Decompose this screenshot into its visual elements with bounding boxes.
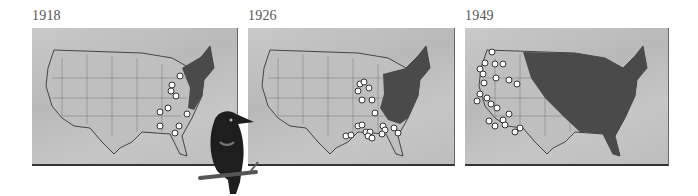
bird-icon [196,102,266,196]
map-frame [465,28,669,166]
us-map-1949 [465,28,668,164]
year-label: 1918 [32,8,61,24]
map-frame [248,28,455,166]
us-map-1926 [248,28,454,164]
year-label: 1926 [248,8,277,24]
year-label: 1949 [465,8,494,24]
starling-illustration [196,102,266,196]
